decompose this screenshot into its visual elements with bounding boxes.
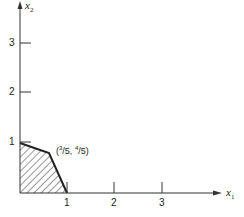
vertex-label-close: )	[86, 146, 89, 156]
y-tick-label-2: 2	[9, 87, 15, 97]
vertex-label: (3/5, 4/5)	[56, 145, 89, 156]
y-tick-label-1: 1	[9, 137, 15, 147]
x-axis-arrow-icon	[213, 191, 222, 196]
x-tick-label-3: 3	[159, 198, 165, 208]
x-axis-label-sub: 1	[231, 193, 235, 201]
y-tick-label-3: 3	[9, 38, 15, 48]
y-axis-arrow-icon	[18, 1, 23, 9]
y-axis-label-sub: 2	[30, 6, 34, 14]
x-tick-label-1: 1	[64, 198, 70, 208]
vertex-label-y-den: /5	[78, 146, 86, 156]
vertex-label-x-den: /5	[62, 146, 70, 156]
x-axis-label: x1	[226, 187, 234, 201]
y-axis-label: x2	[25, 0, 33, 14]
x-tick-label-2: 2	[111, 198, 117, 208]
diagram-canvas	[0, 0, 244, 217]
